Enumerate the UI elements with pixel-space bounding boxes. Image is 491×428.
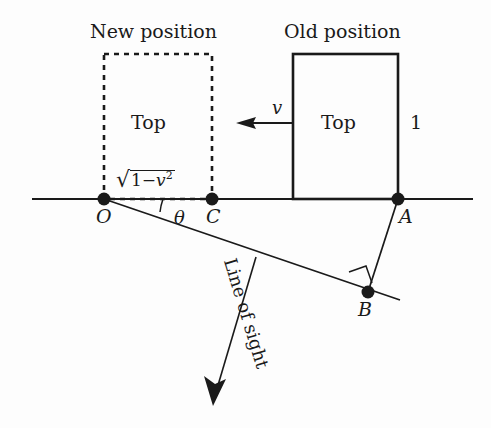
point-o-label: O [96, 207, 112, 226]
radicand-one: 1 [131, 170, 142, 190]
segment-a-b [368, 199, 398, 292]
angle-theta-label: θ [174, 209, 185, 227]
height-length-label: 1 [410, 113, 422, 132]
point-o-dot [98, 193, 111, 206]
right-angle-marker [349, 266, 372, 283]
point-b-label: B [358, 300, 372, 319]
radicand-minus: − [142, 170, 156, 190]
new-position-title: New position [90, 22, 217, 41]
radicand: 1−v2 [130, 170, 175, 190]
new-position-top-label: Top [131, 113, 166, 132]
radicand-exponent: 2 [166, 169, 173, 182]
radical-sign: √ [116, 170, 130, 191]
radicand-v: v [156, 170, 166, 190]
velocity-label: v [272, 99, 282, 117]
contracted-length-label: √ 1−v2 [116, 170, 175, 191]
point-c-dot [206, 193, 219, 206]
old-position-title: Old position [284, 22, 401, 41]
velocity-arrow [236, 117, 293, 129]
physics-diagram-figure: New position Old position Top Top 1 v √ … [0, 0, 491, 428]
point-a-label: A [399, 207, 413, 226]
diagram-canvas [0, 0, 491, 428]
point-a-dot [392, 193, 405, 206]
line-of-sight-ray [104, 199, 400, 300]
angle-theta-arc [160, 199, 163, 212]
point-b-dot [362, 286, 375, 299]
old-position-top-label: Top [321, 113, 356, 132]
point-c-label: C [206, 207, 221, 226]
